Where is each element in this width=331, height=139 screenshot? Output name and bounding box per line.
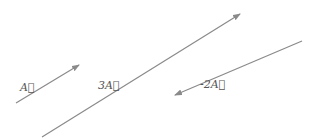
vector-3a-arrow: [42, 14, 240, 137]
vector-neg2a-label: -2A⃗: [200, 78, 225, 91]
vector-3a-label: 3A⃗: [98, 79, 120, 92]
vector-diagram: [0, 0, 331, 139]
vector-a-label: A⃗: [20, 81, 35, 94]
vector-neg2a-arrow: [175, 41, 302, 95]
